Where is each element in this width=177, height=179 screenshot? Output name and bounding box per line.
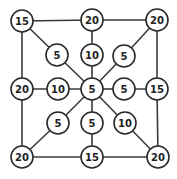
node-il: 10 (47, 78, 69, 100)
node-label: 15 (85, 152, 99, 163)
node-label: 20 (15, 84, 29, 95)
node-label: 20 (150, 15, 164, 26)
node-label: 20 (85, 15, 99, 26)
node-label: 5 (121, 51, 128, 62)
node-ibr: 10 (114, 112, 136, 134)
node-c: 5 (81, 78, 103, 100)
node-ir: 5 (113, 78, 135, 100)
node-label: 5 (89, 118, 96, 129)
node-tl: 15 (11, 10, 33, 32)
node-tr: 20 (146, 9, 168, 31)
node-l: 20 (11, 78, 33, 100)
node-label: 10 (85, 50, 99, 61)
node-label: 10 (51, 84, 65, 95)
node-itr: 5 (113, 45, 135, 67)
node-label: 15 (150, 84, 164, 95)
node-ibl: 5 (47, 112, 69, 134)
graph-diagram: 1520205105201055155510201520 (0, 0, 177, 179)
node-label: 5 (55, 118, 62, 129)
node-label: 10 (118, 118, 132, 129)
node-label: 5 (89, 84, 96, 95)
node-br: 20 (147, 146, 169, 168)
node-r: 15 (146, 78, 168, 100)
node-it: 10 (81, 44, 103, 66)
node-label: 20 (15, 152, 29, 163)
node-bl: 20 (11, 146, 33, 168)
node-itl: 5 (46, 44, 68, 66)
node-b: 15 (81, 146, 103, 168)
node-label: 15 (15, 16, 29, 27)
node-t: 20 (81, 9, 103, 31)
node-label: 5 (54, 50, 61, 61)
node-ib: 5 (81, 112, 103, 134)
node-label: 20 (151, 152, 165, 163)
node-label: 5 (121, 84, 128, 95)
